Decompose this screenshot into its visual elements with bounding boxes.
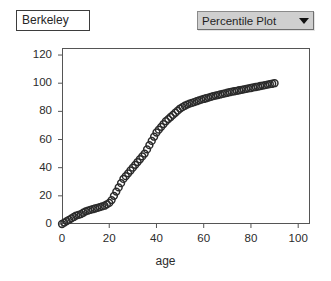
x-tick-label: 100 <box>281 232 315 244</box>
plot-type-selected-value: Percentile Plot <box>202 15 295 27</box>
x-tick-label: 80 <box>234 232 268 244</box>
x-tick-label: 0 <box>45 232 79 244</box>
plot-type-dropdown[interactable]: Percentile Plot <box>197 11 314 30</box>
x-tick-label: 40 <box>139 232 173 244</box>
x-tick-label: 20 <box>92 232 126 244</box>
y-tick-label: 20 <box>20 189 52 201</box>
chevron-down-icon <box>299 18 309 24</box>
dataset-name-field[interactable]: Berkeley <box>16 10 90 31</box>
y-tick-label: 60 <box>20 133 52 145</box>
y-tick-label: 120 <box>20 48 52 60</box>
y-tick-label: 100 <box>20 76 52 88</box>
plot-frame <box>62 48 310 224</box>
x-tick-label: 60 <box>187 232 221 244</box>
applet-window: Berkeley Percentile Plot 020406080100120… <box>0 0 331 281</box>
y-tick-label: 40 <box>20 161 52 173</box>
x-axis-title: age <box>0 254 331 268</box>
y-tick-label: 80 <box>20 104 52 116</box>
y-tick-label: 0 <box>20 217 52 229</box>
